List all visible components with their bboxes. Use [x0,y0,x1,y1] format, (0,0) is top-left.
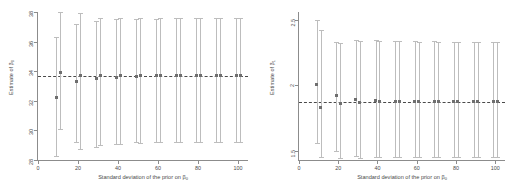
error-bar-cap [178,18,183,19]
y-tick [295,85,299,86]
x-tick [299,160,300,164]
error-bar-cap [218,18,223,19]
data-point [496,100,499,103]
error-bar-cap [377,41,382,42]
error-bar-cap [134,19,139,20]
error-bar-cap [417,157,422,158]
left-plot-inner: 283032343638020406080100 [38,12,248,160]
error-bar [140,18,141,143]
error-bar [180,18,181,142]
data-point [239,74,242,77]
x-tick [158,160,159,164]
data-point [175,74,178,77]
error-bar-cap [118,144,123,145]
x-tick-label: 60 [155,165,161,171]
error-bar-cap [218,142,223,143]
error-bar [176,18,177,142]
error-bar [160,18,161,142]
left-x-label-sub: 0 [186,176,188,181]
error-bar-cap [436,42,441,43]
error-bar-cap [58,129,63,130]
error-bar-cap [94,21,99,22]
error-bar-cap [319,157,324,158]
error-bar-cap [98,145,103,146]
x-tick [338,160,339,164]
y-tick-label: 2.5 [289,19,295,27]
data-point [139,74,142,77]
data-point [235,74,238,77]
data-point [99,74,102,77]
error-bar-cap [456,157,461,158]
x-tick-label: 60 [414,165,420,171]
x-tick [38,160,39,164]
error-bar-cap [377,157,382,158]
data-point [115,76,118,79]
y-tick [34,42,38,43]
left-panel: Estimate of β0 283032343638020406080100 … [0,0,257,186]
error-bar-cap [476,157,481,158]
error-bar-cap [158,18,163,19]
data-point [335,94,338,97]
error-bar-cap [319,30,324,31]
error-bar-cap [456,42,461,43]
y-tick-label: 2 [289,84,295,87]
error-bar-cap [54,156,59,157]
error-bar-cap [98,18,103,19]
error-bar [360,41,361,158]
left-panel-x-axis-label: Standard deviation of the prior on β0 [98,174,188,181]
x-tick [495,160,496,164]
x-tick [198,160,199,164]
y-tick [34,12,38,13]
x-tick-label: 0 [37,165,40,171]
y-tick-label: 36 [28,41,34,47]
right-y-label-text: Estimate of β [269,62,275,95]
x-tick [78,160,79,164]
data-point [55,96,58,99]
data-point [358,101,361,104]
x-tick-label: 100 [491,165,500,171]
data-point [135,75,138,78]
x-tick [377,160,378,164]
right-y-label-sub: 1 [271,60,276,62]
y-tick [34,101,38,102]
data-point [199,74,202,77]
data-point [95,77,98,80]
right-plot-inner: 1.522.5020406080100 [299,12,505,160]
error-bar-cap [495,42,500,43]
left-plot-area: 283032343638020406080100 Standard deviat… [37,12,248,161]
right-panel: Estimate of β1 1.522.5020406080100 Stand… [257,0,514,186]
data-point [155,74,158,77]
error-bar-cap [74,142,79,143]
data-point [417,100,420,103]
y-tick [34,71,38,72]
data-point [492,100,495,103]
error-bar-cap [476,42,481,43]
error-bar-cap [495,157,500,158]
data-point [378,100,381,103]
x-tick [238,160,239,164]
x-tick [118,160,119,164]
x-tick-label: 80 [195,165,201,171]
error-bar [321,30,322,157]
error-bar-cap [358,158,363,159]
error-bar-cap [354,156,359,157]
left-panel-y-axis-label: Estimate of β0 [8,60,15,95]
error-bar-cap [436,157,441,158]
left-x-label-text: Standard deviation of the prior on β [98,174,186,180]
data-point [119,74,122,77]
y-tick-label: 30 [28,129,34,135]
error-bar [200,18,201,142]
data-point [159,74,162,77]
data-point [394,100,397,103]
right-plot-area: 1.522.5020406080100 Standard deviation o… [298,12,505,161]
data-point [315,83,318,86]
error-bar-cap [198,142,203,143]
x-tick [456,160,457,164]
error-bar [379,41,380,158]
data-point [374,99,377,102]
data-point [413,100,416,103]
error-bar-cap [94,147,99,148]
data-point [472,100,475,103]
data-point [476,100,479,103]
error-bar-cap [238,18,243,19]
